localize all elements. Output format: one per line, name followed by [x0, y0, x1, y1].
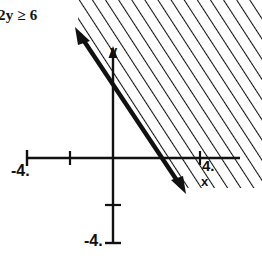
x-axis-label: x: [201, 175, 208, 188]
x-axis-tick-label-neg4: -4.: [11, 163, 30, 179]
inequality-caption: 2y ≥ 6: [0, 8, 37, 23]
inequality-graph-figure: 2y ≥ 6 -4. -4. 4. x y: [0, 0, 262, 262]
y-axis-tick-label-neg4: -4.: [84, 233, 103, 249]
x-axis-tick-label-pos4: 4.: [202, 158, 215, 173]
y-axis-label: y: [110, 44, 117, 57]
plot-canvas: [0, 0, 262, 262]
solution-region-hatching: [0, 0, 262, 262]
